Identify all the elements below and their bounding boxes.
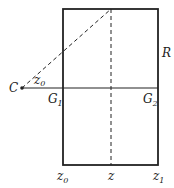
label-z0-angle: z0 [33, 73, 45, 88]
diagram-canvas: C R z0 G1 G2 z0 z z1 [0, 0, 174, 188]
label-c: C [9, 81, 18, 95]
diagram: C R z0 G1 G2 z0 z z1 [0, 0, 174, 188]
point-c [20, 86, 24, 90]
label-r: R [161, 46, 171, 60]
label-z0-bottom: z0 [56, 169, 68, 185]
label-z-bottom: z [107, 169, 115, 183]
label-z1-bottom: z1 [152, 169, 164, 185]
label-g2: G2 [143, 92, 158, 108]
label-g1: G1 [48, 92, 63, 108]
